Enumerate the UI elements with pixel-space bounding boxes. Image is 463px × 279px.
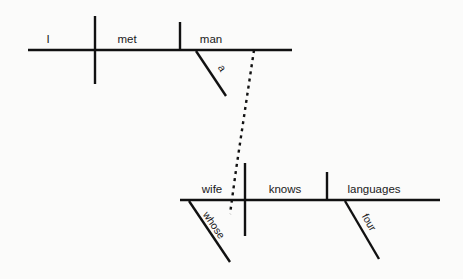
relative-subject-label: wife (201, 183, 222, 195)
relative-direct-object-label: languages (347, 183, 400, 195)
relative-pronoun-connector (230, 50, 254, 214)
article-modifier-line (196, 51, 226, 96)
relative-verb-label: knows (269, 183, 302, 195)
relative-clause-group: wife knows languages whose four (180, 163, 440, 262)
numeral-modifier-line (345, 201, 379, 259)
main-direct-object-label: man (200, 33, 222, 45)
main-subject-label: I (46, 33, 49, 45)
main-verb-label: met (117, 33, 137, 45)
article-modifier-label: a (216, 62, 229, 74)
sentence-diagram: I met man a wife knows languages whose f… (0, 0, 463, 279)
main-clause-group: I met man a (28, 16, 292, 96)
diagram-canvas: I met man a wife knows languages whose f… (0, 0, 463, 279)
